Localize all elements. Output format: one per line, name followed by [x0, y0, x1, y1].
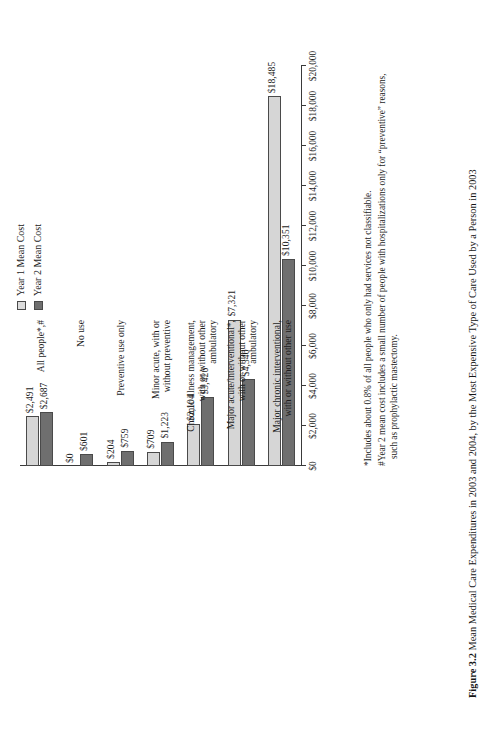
category-label-line: Major chronic interventional, [271, 320, 282, 550]
category-label: Preventive use only [115, 320, 126, 550]
bar-value-label: $204 [106, 440, 116, 459]
legend-label-year2: Year 2 Mean Cost [31, 224, 45, 296]
category-label-line: All people*,# [35, 320, 46, 550]
x-axis-tick [301, 65, 306, 66]
figure-caption: Figure 3.2 Mean Medical Care Expenditure… [466, 26, 479, 698]
figure-3-2: $2,491$2,687All people*,#$0$601No use$20… [0, 0, 502, 734]
category-label-line: ambulatory [207, 320, 218, 550]
page-rotation-wrapper: $2,491$2,687All people*,#$0$601No use$20… [0, 0, 502, 734]
x-axis-tick-label: $4,000 [308, 373, 318, 399]
category-label: Major acute/interventional*,with or with… [225, 320, 258, 550]
x-axis-tick-label: $2,000 [308, 413, 318, 439]
footnote-text-asterisk: Includes about 0.8% of all people who on… [363, 191, 373, 462]
footnote-asterisk: *Includes about 0.8% of all people who o… [362, 26, 375, 466]
x-axis-tick-label: $14,000 [308, 171, 318, 201]
plot-area: $2,491$2,687All people*,#$0$601No use$20… [20, 66, 302, 466]
x-axis-tick [301, 185, 306, 186]
category-label-line: ambulatory [247, 320, 258, 550]
footnote-text-hash-continued: such as prophylactic mastectomy. [388, 26, 401, 466]
footnote-marker-hash: # [377, 461, 387, 466]
bar-value-label: $18,485 [267, 62, 277, 94]
category-label-line: Preventive use only [115, 320, 126, 550]
category-label: Minor acute, with orwithout preventive [150, 320, 172, 550]
bar-group: $709$1,223Minor acute, with orwithout pr… [147, 66, 177, 466]
category-label: All people*,# [35, 320, 46, 550]
bar-group: $2,104$3,426Chronic illness management,w… [187, 66, 217, 466]
bar-value-label: $2,491 [25, 386, 35, 413]
bar-value-label: $10,351 [281, 224, 291, 256]
category-label-line: without preventive [161, 320, 172, 550]
figure-caption-text: Mean Medical Care Expenditures in 2003 a… [467, 169, 478, 650]
category-label-line: Minor acute, with or [150, 320, 161, 550]
category-label-line: Chronic illness management, [185, 320, 196, 550]
legend-item-year1: Year 1 Mean Cost [14, 224, 28, 310]
category-label: No use [75, 320, 86, 550]
chart-legend: Year 1 Mean Cost Year 2 Mean Cost [14, 224, 48, 310]
x-axis-tick [301, 385, 306, 386]
category-label-line: No use [75, 320, 86, 550]
x-axis-tick-label: $16,000 [308, 131, 318, 161]
bar-value-label: $7,321 [227, 290, 237, 317]
x-axis-tick-label: $6,000 [308, 333, 318, 359]
bar-group: $7,321$4,340Major acute/interventional*,… [228, 66, 258, 466]
category-label-line: with or without other use [282, 320, 293, 550]
x-axis-tick [301, 425, 306, 426]
legend-swatch-icon-year2 [34, 301, 43, 310]
x-axis-tick-label: $0 [308, 461, 318, 470]
x-axis-tick [301, 465, 306, 466]
legend-label-year1: Year 1 Mean Cost [14, 224, 28, 296]
x-axis-tick [301, 265, 306, 266]
x-axis-tick [301, 305, 306, 306]
x-axis-tick-label: $20,000 [308, 51, 318, 81]
category-label: Major chronic interventional,with or wit… [271, 320, 293, 550]
footnote-hash: #Year 2 mean cost includes a small numbe… [376, 26, 401, 466]
bar-group: $18,485$10,351Major chronic intervention… [268, 66, 298, 466]
legend-swatch-icon-year1 [17, 301, 26, 310]
x-axis-tick-label: $18,000 [308, 91, 318, 121]
bar-group: $204$759Preventive use only [107, 66, 137, 466]
x-axis-tick [301, 225, 306, 226]
category-label-line: with or without other [236, 320, 247, 550]
x-axis-tick-label: $8,000 [308, 293, 318, 319]
x-axis-tick-label: $10,000 [308, 251, 318, 281]
x-axis-tick-label: $12,000 [308, 211, 318, 241]
category-label: Chronic illness management,with or witho… [185, 320, 218, 550]
footnote-text-hash: Year 2 mean cost includes a small number… [377, 73, 387, 461]
category-label-line: with or without other [196, 320, 207, 550]
bar-value-label: $0 [65, 453, 75, 463]
x-axis-tick [301, 105, 306, 106]
bar-chart: $2,491$2,687All people*,#$0$601No use$20… [16, 56, 346, 616]
figure-caption-label: Figure 3.2 [467, 653, 478, 698]
bar-group: $0$601No use [66, 66, 96, 466]
figure-footnotes: *Includes about 0.8% of all people who o… [362, 26, 402, 466]
x-axis-tick [301, 145, 306, 146]
category-label-line: Major acute/interventional*, [225, 320, 236, 550]
legend-item-year2: Year 2 Mean Cost [31, 224, 45, 310]
x-axis: $0$2,000$4,000$6,000$8,000$10,000$12,000… [301, 66, 302, 466]
x-axis-tick [301, 345, 306, 346]
footnote-marker-asterisk: * [363, 461, 373, 466]
